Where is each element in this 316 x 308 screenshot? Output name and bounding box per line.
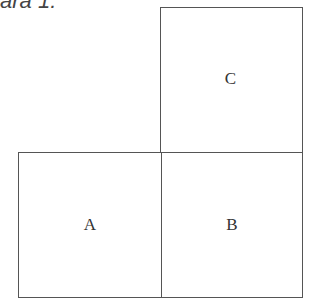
box-c: C (160, 7, 303, 153)
box-a: A (18, 152, 162, 298)
box-b-label: B (226, 215, 237, 235)
box-c-label: C (225, 69, 236, 89)
figure-caption: ara 1: (0, 0, 56, 14)
box-a-label: A (84, 215, 96, 235)
box-b: B (161, 152, 303, 298)
